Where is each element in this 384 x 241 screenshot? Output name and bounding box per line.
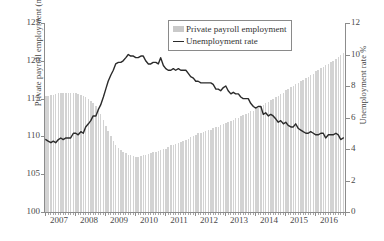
x-axis-minor-tick xyxy=(238,213,239,215)
x-axis-minor-tick xyxy=(243,213,244,215)
x-axis-minor-tick xyxy=(240,213,241,215)
y-axis-left-tick-mark xyxy=(41,136,45,137)
x-axis-minor-tick xyxy=(188,213,189,215)
x-axis-tick-mark xyxy=(255,213,256,216)
x-axis-minor-tick xyxy=(305,213,306,215)
x-axis-minor-tick xyxy=(343,213,344,215)
x-axis-minor-tick xyxy=(210,213,211,215)
bar-swatch-icon xyxy=(173,26,184,32)
x-axis-minor-tick xyxy=(268,213,269,215)
x-axis-minor-tick xyxy=(138,213,139,215)
x-axis-minor-tick xyxy=(108,213,109,215)
legend-item-private-payroll-employment: Private payroll employment xyxy=(173,23,286,35)
x-axis-minor-tick xyxy=(340,213,341,215)
y-axis-right-tick-label: 10 xyxy=(351,49,373,59)
x-axis-minor-tick xyxy=(173,213,174,215)
x-axis-minor-tick xyxy=(95,213,96,215)
x-axis-minor-tick xyxy=(233,213,234,215)
x-axis-minor-tick xyxy=(83,213,84,215)
y-axis-left-tick-label: 115 xyxy=(14,93,40,103)
x-axis-minor-tick xyxy=(298,213,299,215)
x-axis-tick-mark xyxy=(135,213,136,216)
y-axis-right-tick-label: 12 xyxy=(351,17,373,27)
x-axis-minor-tick xyxy=(178,213,179,215)
x-axis-minor-tick xyxy=(118,213,119,215)
x-axis-minor-tick xyxy=(80,213,81,215)
x-axis-minor-tick xyxy=(303,213,304,215)
y-axis-left-tick-label: 125 xyxy=(14,17,40,27)
x-axis-minor-tick xyxy=(335,213,336,215)
x-axis-minor-tick xyxy=(270,213,271,215)
x-axis-minor-tick xyxy=(318,213,319,215)
x-axis-minor-tick xyxy=(200,213,201,215)
x-axis-minor-tick xyxy=(248,213,249,215)
x-axis-tick-mark xyxy=(105,213,106,216)
x-axis-minor-tick xyxy=(320,213,321,215)
x-axis-tick-mark xyxy=(75,213,76,216)
x-axis-minor-tick xyxy=(170,213,171,215)
y-axis-right-tick-mark xyxy=(346,212,350,213)
x-axis-minor-tick xyxy=(93,213,94,215)
y-axis-left-tick-label: 110 xyxy=(14,130,40,140)
x-axis-minor-tick xyxy=(183,213,184,215)
x-axis-minor-tick xyxy=(115,213,116,215)
x-axis-minor-tick xyxy=(98,213,99,215)
x-axis-minor-tick xyxy=(175,213,176,215)
x-axis-minor-tick xyxy=(228,213,229,215)
x-axis-minor-tick xyxy=(273,213,274,215)
x-axis-minor-tick xyxy=(180,213,181,215)
y-axis-left-tick-mark xyxy=(41,174,45,175)
clipped-top-strip xyxy=(0,0,384,3)
x-axis-minor-tick xyxy=(215,213,216,215)
y-axis-right-tick-mark xyxy=(346,118,350,119)
legend-item-unemployment-rate: Unemployment rate xyxy=(173,35,286,47)
x-axis-minor-tick xyxy=(110,213,111,215)
x-axis-tick-mark xyxy=(225,213,226,216)
y-axis-left-tick-mark xyxy=(41,23,45,24)
x-axis-minor-tick xyxy=(90,213,91,215)
chart-figure: Private payroll employment (millions) Un… xyxy=(0,0,384,241)
y-axis-left-tick-label: 100 xyxy=(14,206,40,216)
chart-legend: Private payroll employment Unemployment … xyxy=(168,20,292,51)
x-axis-minor-tick xyxy=(295,213,296,215)
x-axis-minor-tick xyxy=(198,213,199,215)
x-axis-minor-tick xyxy=(145,213,146,215)
x-axis-minor-tick xyxy=(158,213,159,215)
x-axis-minor-tick xyxy=(323,213,324,215)
x-axis-minor-tick xyxy=(208,213,209,215)
x-axis-minor-tick xyxy=(63,213,64,215)
x-axis-tick-mark xyxy=(165,213,166,216)
y-axis-right-tick-label: 4 xyxy=(351,143,373,153)
x-axis-minor-tick xyxy=(278,213,279,215)
x-axis-minor-tick xyxy=(330,213,331,215)
plot-area xyxy=(45,23,345,212)
y-axis-right-tick-label: 2 xyxy=(351,175,373,185)
x-axis-minor-tick xyxy=(300,213,301,215)
x-axis-minor-tick xyxy=(148,213,149,215)
x-axis-minor-tick xyxy=(65,213,66,215)
x-axis-minor-tick xyxy=(203,213,204,215)
x-axis-minor-tick xyxy=(143,213,144,215)
x-axis-minor-tick xyxy=(55,213,56,215)
x-axis-minor-tick xyxy=(325,213,326,215)
x-axis-minor-tick xyxy=(258,213,259,215)
y-axis-left-tick-mark xyxy=(41,99,45,100)
y-axis-right-tick-label: 8 xyxy=(351,80,373,90)
y-axis-right-tick-label: 6 xyxy=(351,112,373,122)
x-axis-minor-tick xyxy=(153,213,154,215)
x-axis-tick-label: 2016 xyxy=(311,215,347,225)
x-axis-minor-tick xyxy=(50,213,51,215)
x-axis-minor-tick xyxy=(338,213,339,215)
x-axis-tick-mark xyxy=(285,213,286,216)
x-axis-minor-tick xyxy=(230,213,231,215)
x-axis-minor-tick xyxy=(88,213,89,215)
y-axis-left-tick-label: 105 xyxy=(14,168,40,178)
y-axis-right-tick-mark xyxy=(346,23,350,24)
x-axis-minor-tick xyxy=(263,213,264,215)
x-axis-minor-tick xyxy=(245,213,246,215)
x-axis-minor-tick xyxy=(155,213,156,215)
x-axis-minor-tick xyxy=(308,213,309,215)
x-axis-minor-tick xyxy=(125,213,126,215)
legend-label-private-payroll-employment: Private payroll employment xyxy=(186,24,286,34)
x-axis-tick-mark xyxy=(345,213,346,216)
